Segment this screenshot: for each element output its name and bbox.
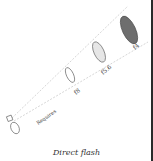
diagram-caption: Direct flash [0, 148, 153, 157]
aperture-f4 [117, 14, 141, 47]
aperture-f5-6 [90, 40, 108, 64]
lower-ray [14, 42, 148, 121]
diagram-canvas: f8 f5.6 f4 Requires Direct flash [0, 0, 153, 161]
page-edge [151, 0, 153, 161]
upper-ray [12, 6, 128, 118]
label-f5-6: f5.6 [99, 63, 113, 76]
flash-unit-icon [6, 115, 21, 135]
aperture-f8 [63, 66, 76, 83]
label-f8: f8 [72, 86, 81, 95]
label-requires: Requires [35, 108, 58, 127]
flash-diagram: f8 f5.6 f4 Requires [0, 0, 153, 161]
